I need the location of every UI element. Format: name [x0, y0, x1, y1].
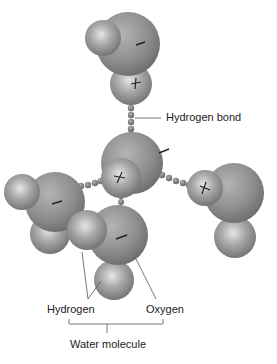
hydrogen-label: Hydrogen [47, 304, 95, 315]
water-molecule-bracket [69, 319, 163, 333]
hydrogen-atom [67, 210, 107, 250]
hydrogen-atom [85, 20, 121, 56]
hydrogen-atom [4, 174, 40, 210]
hydrogen-atom [94, 260, 134, 300]
hydrogen-leader-line-1 [82, 252, 88, 299]
hydrogen-atom [101, 158, 141, 198]
oxygen-label: Oxygen [146, 304, 184, 315]
water-molecule-bottom [67, 205, 148, 300]
water-hydrogen-bond-diagram [0, 0, 277, 364]
hydrogen-bond-left [78, 178, 104, 189]
water-molecule-top [85, 12, 160, 105]
water-molecule-center [101, 132, 169, 198]
water-molecule-right [187, 163, 264, 258]
oxygen-leader-line [135, 257, 156, 299]
water-molecule-label: Water molecule [70, 339, 146, 350]
hydrogen-bond-label: Hydrogen bond [166, 112, 241, 123]
